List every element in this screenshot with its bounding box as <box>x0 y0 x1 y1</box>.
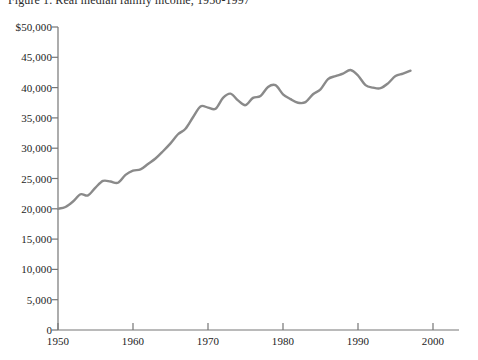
x-tick-label: 1950 <box>35 336 81 347</box>
x-tick-label: 2000 <box>410 336 456 347</box>
x-tick-label: 1990 <box>335 336 381 347</box>
x-tick-label: 1970 <box>185 336 231 347</box>
chart-container: Figure 1. Real median family income, 195… <box>0 0 478 360</box>
x-tick-label: 1960 <box>110 336 156 347</box>
x-tick-label: 1980 <box>260 336 306 347</box>
x-axis-tick-labels: 195019601970198019902000 <box>0 0 478 360</box>
